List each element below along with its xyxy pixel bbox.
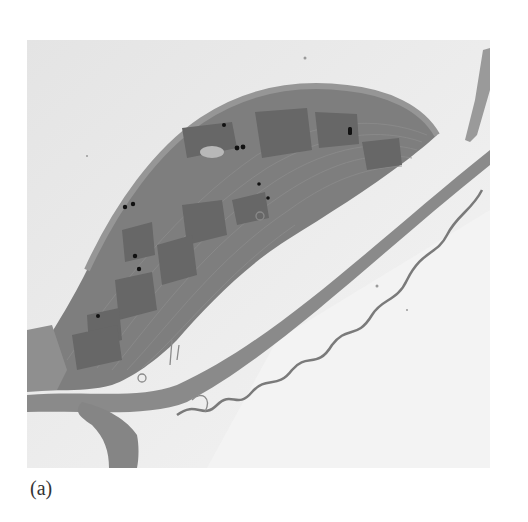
micrograph-image [27,40,490,468]
figure: (a) [0,0,528,522]
panel-label: (a) [30,478,52,498]
chloroplast-micrograph [27,40,490,468]
